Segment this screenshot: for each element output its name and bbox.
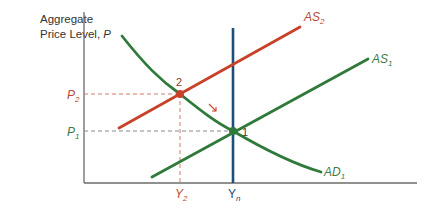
- movement-arrow-icon: [209, 104, 216, 111]
- equilibrium-point-1: [229, 127, 237, 135]
- point-2-label: 2: [176, 76, 182, 88]
- ad1-label: AD1: [323, 165, 345, 181]
- yn-tick-label: Yn: [228, 187, 241, 203]
- y-axis-title-line1: Aggregate: [40, 13, 93, 25]
- as1-label: AS1: [371, 52, 392, 68]
- y-axis-title-line2: Price Level, P: [40, 28, 111, 40]
- p2-tick-label: P2: [67, 88, 80, 104]
- ad1-curve: [122, 36, 321, 172]
- y2-tick-label: Y2: [175, 187, 188, 203]
- as2-curve: [119, 27, 300, 128]
- p1-tick-label: P1: [67, 125, 79, 141]
- equilibrium-point-2: [176, 90, 184, 98]
- point-1-label: 1: [242, 126, 248, 138]
- as2-label: AS2: [303, 10, 325, 26]
- as1-curve: [152, 59, 368, 177]
- as-ad-diagram: Aggregate Price Level, P 2 1 AS2 AS1 AD1…: [0, 0, 428, 210]
